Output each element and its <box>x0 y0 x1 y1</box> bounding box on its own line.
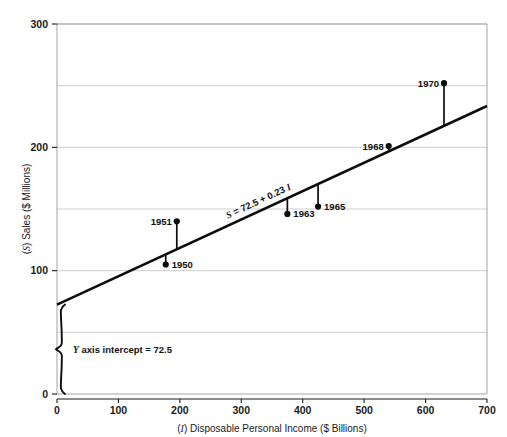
x-tick-label: 300 <box>233 404 251 416</box>
x-axis <box>57 399 487 403</box>
x-axis-tick-labels: 0100200300400500600700 <box>54 404 496 416</box>
y-intercept-annotation: Y axis intercept = 72.5 <box>56 305 173 394</box>
fit-line <box>57 106 487 305</box>
y-axis <box>52 24 57 394</box>
x-tick-label: 100 <box>110 404 128 416</box>
data-point-label: 1951 <box>151 216 173 227</box>
data-point <box>386 143 392 149</box>
y-axis-tick-labels: 0100200300 <box>30 18 48 400</box>
y-tick-label: 300 <box>30 18 48 30</box>
y-intercept-label: Y axis intercept = 72.5 <box>73 344 173 355</box>
x-axis-title: (I) Disposable Personal Income ($ Billio… <box>177 423 367 434</box>
x-tick-label: 0 <box>54 404 60 416</box>
data-point-label: 1963 <box>293 208 314 219</box>
y-tick-label: 200 <box>30 141 48 153</box>
data-point-label: 1965 <box>324 201 346 212</box>
gridlines <box>57 24 487 332</box>
data-point <box>441 80 447 86</box>
data-points <box>163 80 447 268</box>
data-point <box>284 211 290 217</box>
x-tick-label: 500 <box>355 404 373 416</box>
x-tick-label: 700 <box>478 404 496 416</box>
data-point <box>315 203 321 209</box>
data-point-label: 1968 <box>363 141 384 152</box>
drop-lines <box>166 83 444 264</box>
x-tick-label: 600 <box>417 404 435 416</box>
data-point-label: 1950 <box>172 259 193 270</box>
regression-line <box>57 106 487 305</box>
y-tick-label: 0 <box>42 388 48 400</box>
y-axis-title: (S) Sales ($ Millions) <box>21 164 32 255</box>
y-tick-label: 100 <box>30 264 48 276</box>
data-point-label: 1970 <box>418 78 439 89</box>
chart-page: 0100200300 0100200300400500600700 195019… <box>0 0 507 437</box>
axis-titles: (I) Disposable Personal Income ($ Billio… <box>21 164 367 434</box>
data-point <box>163 261 169 267</box>
x-tick-label: 400 <box>294 404 312 416</box>
scatter-chart: 0100200300 0100200300400500600700 195019… <box>0 0 507 437</box>
data-point <box>174 218 180 224</box>
x-tick-label: 200 <box>171 404 189 416</box>
